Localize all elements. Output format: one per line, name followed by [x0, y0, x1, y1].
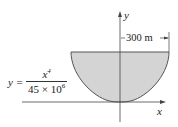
equation-denominator: 45 × 106: [26, 81, 67, 95]
y-axis-label: y: [124, 10, 129, 21]
equation-lhs: y =: [8, 76, 23, 88]
basin-diagram: [0, 0, 178, 127]
x-axis-arrow-icon: [160, 100, 166, 104]
equation-numerator: x4: [40, 68, 52, 81]
dimension-arrow-icon: [164, 37, 169, 40]
curve-equation: y = x4 45 × 106: [8, 68, 67, 95]
equation-fraction: x4 45 × 106: [26, 68, 67, 95]
dimension-label: 300 m: [126, 33, 153, 44]
y-axis-arrow-icon: [118, 11, 122, 17]
x-axis-label: x: [157, 106, 162, 117]
